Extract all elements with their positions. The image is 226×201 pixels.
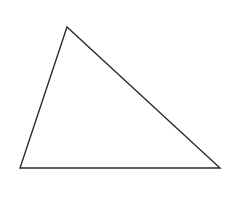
diagram-canvas: [0, 0, 226, 201]
triangle-shape: [20, 27, 220, 168]
